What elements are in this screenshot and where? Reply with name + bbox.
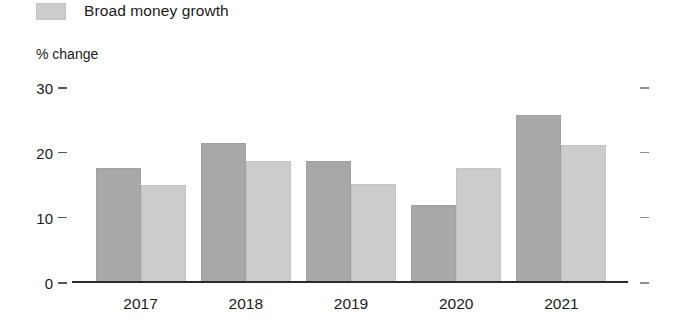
bar-2021-series-1 [516,115,561,283]
y-axis-tick-label: 0 [45,275,53,292]
x-axis-tick-label: 2021 [544,295,578,313]
bar-group: 2018 [193,88,298,283]
bar-2019-series-2 [351,184,396,283]
bar-2018-series-1 [201,143,246,283]
y-axis-tick-mark-left [58,217,67,219]
x-axis-baseline [72,281,628,284]
y-axis-tick-label: 30 [36,80,53,97]
chart-legend: Broad money growth [36,0,229,24]
bar-group: 2020 [404,88,509,283]
y-axis-tick-label: 10 [36,209,53,226]
y-axis-title: % change [36,46,98,62]
bar-group: 2021 [509,88,614,283]
bar-2018-series-2 [246,161,291,283]
bar-2019-series-1 [306,161,351,283]
x-axis-tick-label: 2020 [439,295,473,313]
y-axis-tick-mark-right [640,217,649,219]
y-axis-tick-mark-right [640,152,649,154]
bar-2017-series-2 [141,185,186,283]
bar-group: 2017 [88,88,193,283]
bar-2021-series-2 [561,145,606,283]
bar-2017-series-1 [96,168,141,283]
plot-area: 3020100 20172018201920202021 [72,88,628,283]
x-axis-tick-label: 2017 [123,295,157,313]
x-axis-tick-label: 2019 [334,295,368,313]
bar-2020-series-1 [411,205,456,283]
bar-group: 2019 [298,88,403,283]
y-axis-tick-label: 20 [36,144,53,161]
y-axis-tick-mark-right [640,87,649,89]
bar-groups: 20172018201920202021 [72,88,628,283]
y-axis-tick-mark-left [58,152,67,154]
y-axis-tick-mark-left [58,282,67,284]
legend-item-broad-money-growth: Broad money growth [36,2,229,20]
bar-2020-series-2 [456,168,501,283]
legend-label: Broad money growth [84,2,229,20]
y-axis-tick-mark-left [58,87,67,89]
x-axis-tick-label: 2018 [229,295,263,313]
legend-swatch-icon [36,3,66,20]
y-axis-tick-mark-right [640,282,649,284]
